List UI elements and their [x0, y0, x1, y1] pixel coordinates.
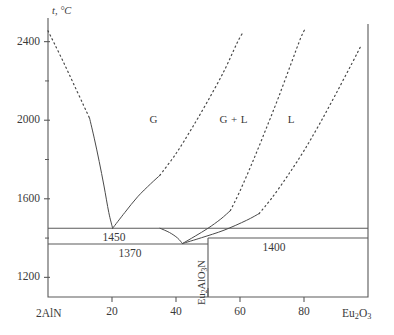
- region-label-G: G: [149, 114, 157, 125]
- x-axis-right-endmember: Eu2O3: [342, 308, 371, 321]
- boundary-curves: [48, 28, 362, 244]
- curve-compound-liquidus-left-solid: [113, 175, 160, 228]
- compound-label: Eu2AlO3N: [197, 260, 208, 305]
- y-tick-label-2000: 2000: [0, 114, 40, 126]
- curve-aln-liquidus-solid: [90, 118, 113, 228]
- x-axis-left-endmember: 2AlN: [36, 308, 62, 320]
- region-label-G+L: G + L: [219, 114, 247, 125]
- x-tick-label-60: 60: [226, 306, 254, 318]
- x-tick-label-40: 40: [162, 306, 190, 318]
- phase-diagram-figure: 145013701400120016002000240020406080t, °…: [0, 0, 394, 335]
- isotherm-label-eutectoid-1370: 1370: [118, 248, 141, 260]
- curve-solvus-upper-solid: [160, 228, 182, 243]
- region-label-L: L: [288, 114, 295, 125]
- isotherm-label-eutectic-1450: 1450: [102, 232, 125, 244]
- x-tick-label-20: 20: [98, 306, 126, 318]
- curve-compound-liquidus-left-dashed: [160, 32, 243, 175]
- curve-aln-liquidus-dashed: [48, 31, 90, 118]
- y-tick-label-2400: 2400: [0, 36, 40, 48]
- axis-ticks: [44, 42, 304, 302]
- y-axis-label: t, °C: [52, 6, 71, 17]
- x-tick-label-80: 80: [290, 306, 318, 318]
- isotherm-label-eutectic-1400: 1400: [262, 242, 285, 254]
- y-tick-label-1200: 1200: [0, 271, 40, 283]
- curve-eu2o3-liquidus-dashed: [259, 45, 361, 214]
- y-tick-label-1600: 1600: [0, 193, 40, 205]
